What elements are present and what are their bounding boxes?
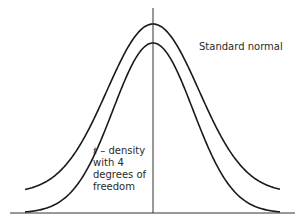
t-density-label-line2: with 4 xyxy=(93,157,124,168)
t-density-label-line3: degrees of xyxy=(93,169,147,180)
t-density-word: – density xyxy=(97,145,145,156)
t-density-label-line1: t – density xyxy=(93,145,145,156)
t-density-label-line4: freedom xyxy=(93,181,135,192)
density-diagram: Standard normal t – density with 4 degre… xyxy=(0,0,302,221)
standard-normal-label: Standard normal xyxy=(199,41,283,52)
